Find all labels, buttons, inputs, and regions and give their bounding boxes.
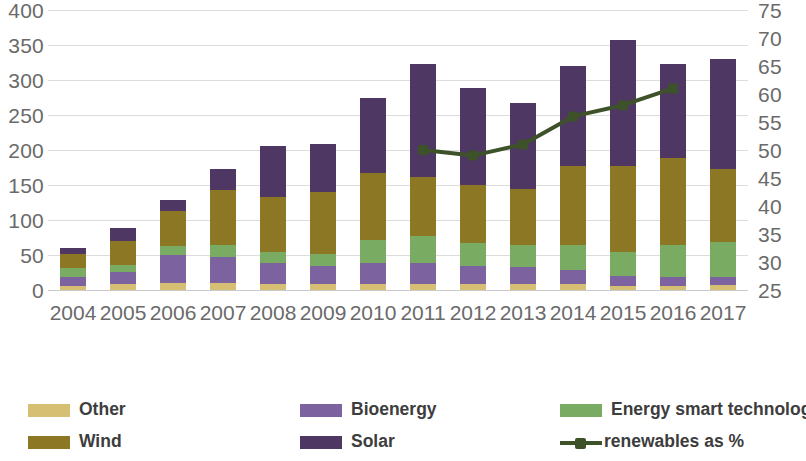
bar-segment-bioenergy[interactable]	[560, 270, 586, 284]
bar-segment-wind[interactable]	[210, 190, 236, 245]
bar-segment-energy-smart-technologies[interactable]	[460, 243, 486, 266]
bar-segment-other[interactable]	[660, 286, 686, 290]
bar-2012[interactable]	[460, 88, 486, 290]
bar-2013[interactable]	[510, 103, 536, 290]
bar-segment-other[interactable]	[60, 286, 86, 290]
bar-segment-energy-smart-technologies[interactable]	[210, 245, 236, 257]
bar-segment-wind[interactable]	[510, 189, 536, 245]
bar-segment-bioenergy[interactable]	[410, 263, 436, 284]
gridline	[48, 220, 748, 221]
bar-segment-bioenergy[interactable]	[310, 266, 336, 284]
bar-segment-energy-smart-technologies[interactable]	[610, 252, 636, 277]
y-axis-right-tick: 75	[758, 0, 782, 21]
gridline	[48, 45, 748, 46]
bar-segment-other[interactable]	[310, 284, 336, 290]
bar-segment-wind[interactable]	[260, 197, 286, 252]
bar-segment-other[interactable]	[560, 284, 586, 290]
bar-segment-bioenergy[interactable]	[710, 277, 736, 285]
bar-segment-energy-smart-technologies[interactable]	[510, 245, 536, 267]
bar-2008[interactable]	[260, 146, 286, 290]
bar-segment-wind[interactable]	[310, 192, 336, 254]
bar-segment-bioenergy[interactable]	[610, 276, 636, 286]
bar-2004[interactable]	[60, 248, 86, 290]
bar-segment-solar[interactable]	[560, 66, 586, 166]
bar-2011[interactable]	[410, 64, 436, 290]
bar-segment-wind[interactable]	[560, 166, 586, 244]
x-axis: 2004200520062007200820092010201120122013…	[48, 296, 748, 330]
bar-segment-energy-smart-technologies[interactable]	[710, 242, 736, 277]
bar-segment-energy-smart-technologies[interactable]	[310, 254, 336, 267]
bar-segment-wind[interactable]	[710, 169, 736, 242]
y-axis-right-tick: 55	[758, 112, 782, 133]
bar-segment-other[interactable]	[610, 286, 636, 290]
legend-swatch-icon	[560, 404, 602, 417]
bar-segment-bioenergy[interactable]	[510, 267, 536, 284]
legend-item-energy-smart-technologies[interactable]: Energy smart technologies	[560, 398, 806, 422]
bar-segment-wind[interactable]	[110, 241, 136, 265]
bar-segment-solar[interactable]	[310, 144, 336, 192]
y-axis-right-tick: 35	[758, 224, 782, 245]
bar-segment-bioenergy[interactable]	[660, 277, 686, 285]
bar-segment-energy-smart-technologies[interactable]	[410, 236, 436, 263]
bar-segment-wind[interactable]	[660, 158, 686, 245]
bar-segment-wind[interactable]	[60, 254, 86, 269]
bar-segment-energy-smart-technologies[interactable]	[360, 240, 386, 262]
bar-segment-bioenergy[interactable]	[460, 266, 486, 284]
bar-segment-other[interactable]	[710, 285, 736, 290]
bar-segment-bioenergy[interactable]	[360, 263, 386, 285]
bar-segment-other[interactable]	[160, 283, 186, 290]
legend-item-solar[interactable]: Solar	[300, 430, 395, 454]
bar-segment-wind[interactable]	[610, 166, 636, 251]
bar-2009[interactable]	[310, 144, 336, 290]
bar-segment-solar[interactable]	[610, 40, 636, 166]
bar-segment-wind[interactable]	[410, 177, 436, 237]
bar-2005[interactable]	[110, 228, 136, 290]
bar-segment-bioenergy[interactable]	[210, 257, 236, 283]
bar-segment-energy-smart-technologies[interactable]	[160, 246, 186, 255]
bar-segment-bioenergy[interactable]	[160, 255, 186, 283]
bar-segment-solar[interactable]	[260, 146, 286, 197]
bar-segment-solar[interactable]	[510, 103, 536, 189]
bar-2016[interactable]	[660, 64, 686, 290]
bar-segment-energy-smart-technologies[interactable]	[260, 252, 286, 263]
bar-2015[interactable]	[610, 40, 636, 290]
bar-segment-other[interactable]	[510, 284, 536, 290]
bar-segment-wind[interactable]	[160, 211, 186, 246]
bar-2006[interactable]	[160, 200, 186, 290]
bar-segment-solar[interactable]	[160, 200, 186, 211]
legend-label: Bioenergy	[351, 401, 437, 419]
bar-segment-solar[interactable]	[660, 64, 686, 158]
bar-segment-other[interactable]	[210, 283, 236, 290]
bar-segment-other[interactable]	[460, 284, 486, 290]
bar-segment-other[interactable]	[410, 284, 436, 290]
bar-segment-wind[interactable]	[460, 185, 486, 243]
bar-segment-solar[interactable]	[710, 59, 736, 169]
legend-label: Other	[79, 401, 126, 419]
bar-segment-energy-smart-technologies[interactable]	[110, 265, 136, 272]
legend-item-renewables-as-percent[interactable]: renewables as %	[560, 430, 744, 454]
y-axis-left-tick: 50	[20, 245, 44, 266]
bar-segment-solar[interactable]	[460, 88, 486, 185]
legend-item-other[interactable]: Other	[28, 398, 126, 422]
bar-segment-bioenergy[interactable]	[260, 263, 286, 284]
bar-segment-other[interactable]	[260, 284, 286, 290]
bar-segment-solar[interactable]	[110, 228, 136, 241]
bar-2014[interactable]	[560, 66, 586, 290]
legend-swatch-icon	[300, 404, 342, 417]
legend-item-bioenergy[interactable]: Bioenergy	[300, 398, 437, 422]
bar-segment-other[interactable]	[360, 284, 386, 290]
bar-2017[interactable]	[710, 59, 736, 290]
legend-item-wind[interactable]: Wind	[28, 430, 122, 454]
bar-segment-energy-smart-technologies[interactable]	[660, 245, 686, 278]
bar-segment-energy-smart-technologies[interactable]	[560, 245, 586, 271]
bar-segment-bioenergy[interactable]	[110, 272, 136, 284]
bar-segment-bioenergy[interactable]	[60, 277, 86, 285]
bar-segment-energy-smart-technologies[interactable]	[60, 268, 86, 277]
bar-2010[interactable]	[360, 98, 386, 290]
bar-2007[interactable]	[210, 169, 236, 290]
bar-segment-solar[interactable]	[410, 64, 436, 177]
bar-segment-solar[interactable]	[210, 169, 236, 190]
bar-segment-solar[interactable]	[360, 98, 386, 174]
bar-segment-wind[interactable]	[360, 173, 386, 240]
bar-segment-other[interactable]	[110, 284, 136, 290]
